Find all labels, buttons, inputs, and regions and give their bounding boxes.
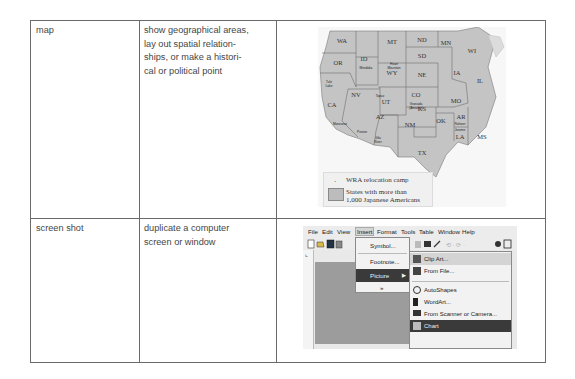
tab-selector-icon: ⌞ (305, 250, 315, 260)
save-icon (327, 240, 334, 248)
svg-text:CO: CO (411, 91, 420, 98)
svg-text:Topaz: Topaz (376, 94, 385, 98)
word-screenshot-example: File Edit View Insert Format Tools Table… (303, 226, 517, 349)
column-divider (276, 21, 277, 362)
chart-icon (413, 322, 421, 330)
use-line: ships, or make a histori- (144, 51, 272, 65)
camp-marker-icon: · (334, 178, 336, 185)
paste-icon (415, 241, 421, 248)
legend-states-line2: 1,000 Japanese Americans (346, 197, 420, 205)
svg-text:MS: MS (477, 133, 487, 140)
svg-text:⟲ · ⟳ ·: ⟲ · ⟳ · (446, 242, 465, 248)
wordart-icon (413, 298, 418, 306)
menu-file: File (308, 228, 318, 235)
scanner-icon (413, 310, 421, 316)
row-type-map: map (36, 24, 54, 38)
svg-text:WI: WI (468, 47, 476, 54)
submenu-item-scanner[interactable]: From Scanner or Camera... (410, 308, 511, 320)
svg-text:AZ: AZ (376, 113, 385, 120)
svg-text:Manzanar: Manzanar (333, 122, 348, 126)
menu-item-symbol[interactable]: Symbol... (356, 239, 409, 252)
menubar: File Edit View Insert Format Tools Table… (303, 226, 517, 238)
submenu-item-wordart[interactable]: WordArt... (410, 296, 511, 308)
column-divider (139, 21, 140, 362)
menu-format: Format (377, 228, 397, 235)
row-type-screenshot: screen shot (36, 222, 84, 236)
svg-text:MN: MN (441, 39, 452, 46)
use-line: cal or political point (144, 65, 272, 79)
svg-text:MO: MO (451, 97, 462, 104)
svg-text:River: River (374, 140, 382, 144)
submenu-item-autoshapes[interactable]: AutoShapes (410, 284, 511, 296)
legend-camp-label: WRA relocation camp (346, 177, 409, 185)
svg-text:Mountain: Mountain (387, 66, 400, 70)
row-use-screenshot: duplicate a computer screen or window (144, 222, 272, 249)
menu-item-footnote[interactable]: Footnote... (356, 255, 409, 268)
tables-icon (504, 240, 511, 248)
copy-icon (424, 241, 431, 247)
toolbar-icons: ⟲ · ⟳ · (303, 238, 517, 250)
picture-submenu: Clip Art... From File... AutoShapes Word… (409, 251, 512, 349)
vertical-ruler: ⌞ (303, 250, 314, 349)
menu-help: Help (462, 228, 475, 235)
svg-text:NM: NM (405, 121, 416, 128)
svg-text:TX: TX (418, 149, 427, 156)
svg-text:UT: UT (382, 98, 391, 105)
menu-item-expand[interactable]: » (356, 281, 409, 294)
use-line: duplicate a computer (144, 222, 272, 236)
use-line: lay out spatial relation- (144, 38, 272, 52)
menu-tools: Tools (401, 228, 415, 235)
svg-text:SD: SD (418, 52, 427, 59)
submenu-item-chart[interactable]: Chart (410, 320, 511, 332)
clip-art-icon (413, 255, 421, 263)
toolbar: ⟲ · ⟳ · (303, 238, 517, 250)
insert-menu: Symbol... Footnote... Picture▶ » (355, 237, 410, 293)
menu-separator (412, 281, 509, 282)
menu-window: Window (438, 228, 460, 235)
menu-edit: Edit (322, 228, 333, 235)
menu-view: View (337, 228, 350, 235)
hyperlink-icon (495, 241, 501, 247)
open-icon (317, 242, 324, 247)
svg-text:Jerome: Jerome (455, 128, 466, 132)
svg-text:IA: IA (454, 69, 461, 76)
permission-icon (336, 241, 342, 248)
svg-text:Rohwer: Rohwer (455, 122, 467, 126)
svg-text:ND: ND (417, 36, 427, 43)
state-swatch-icon (328, 188, 344, 201)
svg-text:Lake: Lake (326, 84, 333, 88)
svg-text:WA: WA (337, 37, 347, 44)
svg-text:AR: AR (456, 113, 466, 120)
row-use-map: show geographical areas, lay out spatial… (144, 24, 272, 78)
svg-text:IL: IL (477, 77, 483, 84)
menu-separator (358, 253, 407, 254)
row-divider (31, 218, 545, 219)
submenu-item-clip-art[interactable]: Clip Art... (410, 253, 511, 265)
format-painter-icon (434, 241, 440, 247)
svg-text:WY: WY (387, 69, 398, 76)
menu-insert: Insert (355, 227, 374, 236)
svg-text:Minidoka: Minidoka (360, 66, 373, 70)
svg-text:MT: MT (387, 38, 397, 45)
submenu-item-from-file[interactable]: From File... (410, 265, 511, 277)
map-legend: · WRA relocation camp States with more t… (323, 172, 433, 207)
svg-text:(Amache): (Amache) (409, 106, 423, 110)
svg-text:OK: OK (436, 117, 446, 124)
svg-text:ID: ID (361, 55, 368, 62)
svg-text:Poston: Poston (357, 130, 367, 134)
svg-text:LA: LA (456, 133, 465, 140)
svg-text:CA: CA (327, 101, 336, 108)
menu-table: Table (419, 228, 434, 235)
new-doc-icon (308, 240, 314, 248)
use-line: show geographical areas, (144, 24, 272, 38)
autoshapes-icon (413, 286, 421, 294)
submenu-arrow-icon: ▶ (402, 272, 406, 278)
svg-text:NE: NE (418, 71, 427, 78)
picture-file-icon (413, 267, 421, 275)
svg-text:NV: NV (351, 91, 361, 98)
use-line: screen or window (144, 236, 272, 250)
svg-text:OR: OR (333, 59, 343, 66)
